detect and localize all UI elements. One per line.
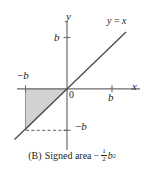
y-axis-tick-label-negative-b: −b	[75, 121, 87, 132]
fraction-denominator: 2	[101, 155, 107, 163]
caption-minus-sign: −	[94, 151, 100, 161]
figure-caption: (B) Signed area − 1 2 b2	[0, 148, 144, 164]
line-equation-label: y = x	[107, 16, 127, 26]
fraction-numerator: 1	[101, 148, 107, 155]
caption-text: Signed area	[45, 151, 92, 161]
line-y-equals-x	[15, 32, 127, 140]
variable-b: b	[23, 69, 29, 81]
panel-label: (B)	[28, 151, 41, 161]
x-axis-label: x	[132, 81, 137, 92]
origin-label: 0	[69, 90, 74, 100]
variable-b: b	[81, 120, 87, 132]
caption-exponent: 2	[113, 153, 116, 159]
caption-fraction: 1 2	[101, 148, 107, 164]
y-axis-label: y	[66, 11, 71, 22]
line-equation-operator: =	[111, 15, 122, 26]
figure-container: y x y = x b −b 0 b −b (B) Signed area − …	[0, 0, 144, 173]
x-axis-tick-label-b: b	[108, 92, 114, 103]
caption-row: (B) Signed area − 1 2 b2	[28, 148, 115, 164]
x-axis-tick-label-negative-b: −b	[17, 70, 29, 81]
line-equation-rhs: x	[122, 15, 126, 26]
y-axis-tick-label-b: b	[54, 32, 60, 43]
